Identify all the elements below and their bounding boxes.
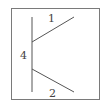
vertical-segment-label: 4	[20, 50, 27, 61]
upper-segment-label: 1	[48, 13, 55, 24]
lower-segment-label: 2	[49, 88, 56, 99]
